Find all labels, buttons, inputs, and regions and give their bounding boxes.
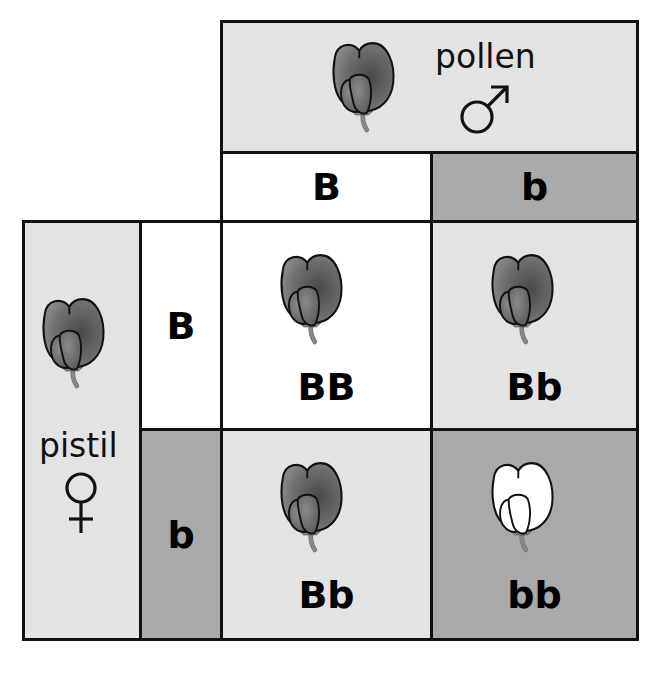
pollen-allele-b: b: [430, 151, 639, 223]
purple-flower-icon: [279, 249, 345, 349]
pistil-label: pistil: [39, 426, 118, 465]
allele-label: b: [521, 165, 548, 209]
genotype-label: Bb: [433, 365, 636, 409]
pistil-allele-B: B: [139, 220, 223, 431]
genotype-label: BB: [223, 365, 430, 409]
female-symbol-icon: [61, 471, 101, 541]
allele-label: B: [312, 165, 341, 209]
purple-flower-icon: [490, 249, 556, 349]
offspring-cell-Bb-bottom: Bb: [220, 428, 433, 641]
offspring-cell-Bb-top: Bb: [430, 220, 639, 431]
pollen-header: pollen: [220, 20, 639, 154]
purple-flower-icon: [331, 37, 397, 137]
genotype-label: bb: [433, 573, 636, 617]
pistil-allele-b: b: [139, 428, 223, 641]
allele-label: B: [167, 304, 196, 348]
genotype-label: Bb: [223, 573, 430, 617]
white-flower-icon: [490, 457, 556, 557]
offspring-cell-BB: BB: [220, 220, 433, 431]
purple-flower-icon: [279, 457, 345, 557]
male-symbol-icon: [457, 81, 513, 137]
offspring-cell-bb: bb: [430, 428, 639, 641]
pollen-label: pollen: [435, 37, 536, 76]
allele-label: b: [167, 513, 194, 557]
purple-flower-icon: [41, 293, 107, 393]
pollen-allele-B: B: [220, 151, 433, 223]
pistil-header: pistil: [22, 220, 142, 641]
